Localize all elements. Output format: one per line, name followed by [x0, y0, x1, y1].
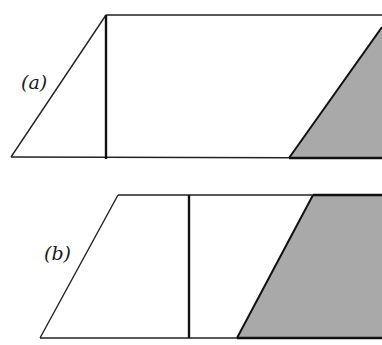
panel-b-label: (b) [44, 242, 71, 264]
panel-a: (a) [11, 15, 382, 159]
panel-a-label: (a) [21, 71, 47, 93]
panel-b-slanted-edge [40, 195, 118, 338]
panel-b-shaded-region [237, 195, 382, 338]
panel-b: (b) [40, 195, 382, 338]
diagram-canvas: (a) (b) [0, 0, 382, 345]
